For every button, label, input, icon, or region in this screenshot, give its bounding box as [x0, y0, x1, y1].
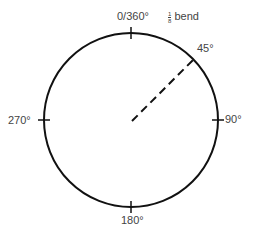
- bend-text: bend: [174, 10, 198, 22]
- label-90: 90°: [225, 113, 242, 125]
- fraction-denominator: 8: [168, 18, 171, 24]
- label-0-360: 0/360°: [117, 10, 149, 22]
- bend-line-45: [132, 60, 193, 121]
- fraction-label: 1 8 bend: [168, 10, 199, 24]
- label-45: 45°: [197, 42, 214, 54]
- circle: [44, 33, 218, 207]
- label-180: 180°: [121, 214, 144, 226]
- fraction-numerator: 1: [168, 11, 171, 18]
- label-270: 270°: [8, 114, 31, 126]
- compass-diagram: [0, 0, 253, 235]
